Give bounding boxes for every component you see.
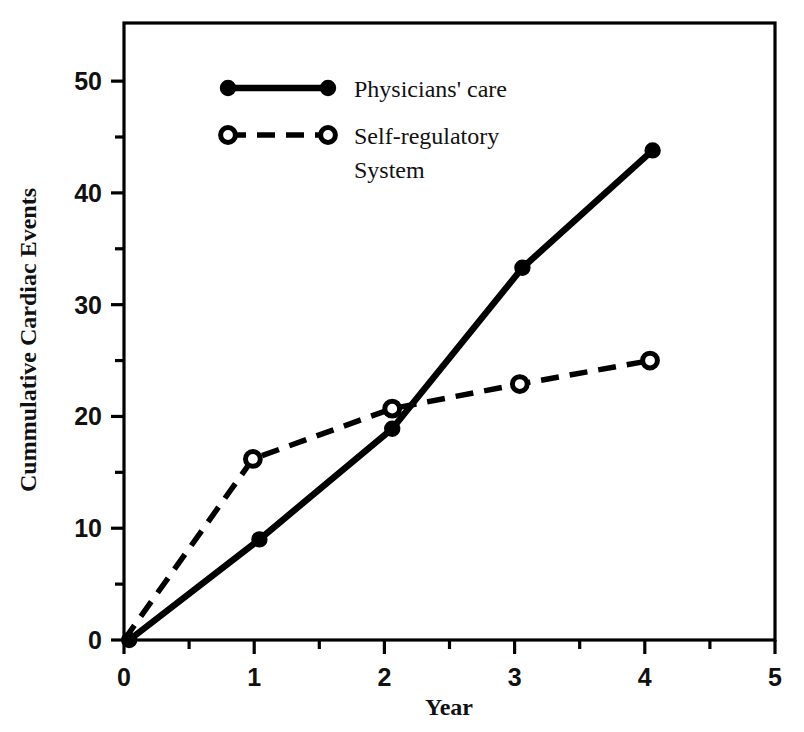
y-tick-label: 40	[74, 179, 102, 207]
y-tick-label: 50	[74, 67, 102, 95]
x-tick-label: 4	[638, 663, 652, 691]
y-axis-ticks	[111, 81, 124, 640]
legend-label-line2: System	[354, 157, 425, 183]
y-axis-title: Cummulative Cardiac Events	[15, 188, 41, 492]
legend-marker-filled	[321, 81, 335, 95]
y-axis-tick-labels: 01020304050	[74, 67, 102, 654]
data-point-filled	[252, 532, 266, 546]
data-point-open	[245, 452, 260, 467]
y-tick-label: 0	[88, 626, 102, 654]
legend-marker-open	[221, 128, 236, 143]
x-axis-tick-labels: 012345	[117, 663, 782, 691]
data-point-filled	[645, 143, 659, 157]
x-tick-label: 0	[117, 663, 131, 691]
x-tick-label: 3	[508, 663, 522, 691]
x-tick-label: 2	[377, 663, 391, 691]
x-axis-title: Year	[425, 694, 473, 720]
data-point-open	[643, 353, 658, 368]
legend-marker-open	[321, 128, 336, 143]
y-tick-label: 10	[74, 514, 102, 542]
legend-marker-filled	[221, 81, 235, 95]
y-tick-label: 30	[74, 291, 102, 319]
data-point-filled	[385, 422, 399, 436]
data-point-open	[512, 377, 527, 392]
legend-label: Self-regulatory	[354, 123, 499, 149]
line-chart-svg: 01020304050 012345 Physicians' careSelf-…	[0, 0, 804, 732]
x-axis-ticks	[124, 640, 775, 654]
data-point-filled	[515, 261, 529, 275]
y-tick-label: 20	[74, 402, 102, 430]
legend-label: Physicians' care	[354, 76, 507, 102]
x-tick-label: 5	[768, 663, 782, 691]
chart-figure: 01020304050 012345 Physicians' careSelf-…	[0, 0, 804, 732]
x-tick-label: 1	[247, 663, 261, 691]
plot-frame	[124, 23, 775, 640]
data-point-open	[385, 401, 400, 416]
